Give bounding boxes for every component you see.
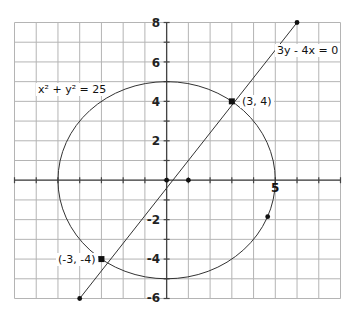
y-tick-label-neg6: -6	[138, 292, 160, 304]
y-tick-label-6: 6	[138, 57, 160, 69]
point-label-3-4: (3, 4)	[240, 95, 274, 108]
circle-equation-label: x² + y² = 25	[36, 83, 108, 96]
line-equation-label: 3y - 4x = 0	[275, 44, 340, 57]
y-tick-label-neg2: -2	[138, 214, 160, 226]
plot-point	[295, 20, 300, 25]
plot-point	[265, 214, 270, 219]
plot-point	[186, 178, 191, 183]
plot-point	[77, 296, 82, 301]
y-tick-label-8: 8	[138, 17, 160, 29]
x-tick-label-5: 5	[271, 182, 279, 194]
intersection-point	[229, 98, 235, 104]
y-tick-label-neg4: -4	[138, 253, 160, 265]
intersection-point	[98, 256, 104, 262]
point-label-neg3-neg4: (-3, -4)	[56, 253, 98, 266]
y-tick-label-4: 4	[138, 96, 160, 108]
plot-point	[164, 178, 169, 183]
y-tick-label-2: 2	[138, 135, 160, 147]
